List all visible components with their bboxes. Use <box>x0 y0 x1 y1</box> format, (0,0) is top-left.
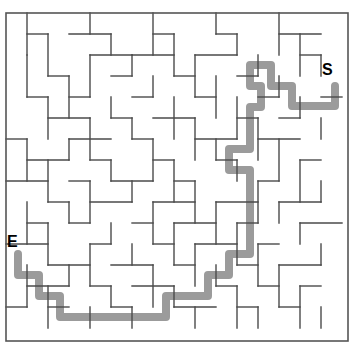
end-label: E <box>7 234 18 250</box>
start-label: S <box>322 62 333 78</box>
maze-grid <box>0 0 353 345</box>
maze-figure: S E <box>0 0 353 345</box>
